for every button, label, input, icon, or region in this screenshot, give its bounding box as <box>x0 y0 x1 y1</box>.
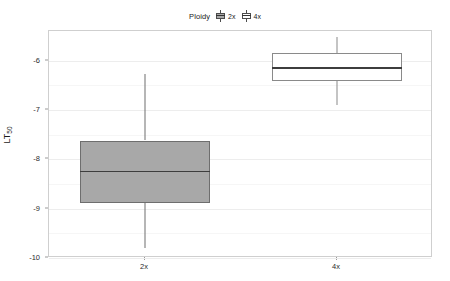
legend-key-2x[interactable]: 2x <box>216 10 235 22</box>
boxplot-glyph-icon <box>216 10 225 22</box>
y-tick-label: -9 <box>8 203 40 212</box>
boxplot-box[interactable] <box>80 31 210 256</box>
boxplot-box[interactable] <box>272 31 402 256</box>
legend-label-2x: 2x <box>228 13 235 20</box>
gridline <box>49 258 431 259</box>
median-line <box>80 171 210 173</box>
whisker-lower <box>337 81 338 105</box>
whisker-upper <box>145 74 146 141</box>
x-tick-label: 2x <box>140 262 148 271</box>
legend: Ploidy 2x 4x <box>0 8 450 24</box>
x-tick-label: 4x <box>332 262 340 271</box>
y-tick-label: -6 <box>8 55 40 64</box>
legend-key-4x[interactable]: 4x <box>242 10 261 22</box>
plot-panel <box>48 30 432 257</box>
whisker-upper <box>337 37 338 53</box>
legend-label-4x: 4x <box>254 13 261 20</box>
legend-title: Ploidy <box>189 12 210 21</box>
whisker-lower <box>145 203 146 248</box>
y-tick-label: -10 <box>8 253 40 262</box>
y-axis-title: LT50 <box>2 126 12 143</box>
y-tick-label: -8 <box>8 154 40 163</box>
boxplot-glyph-icon <box>242 10 251 22</box>
median-line <box>272 67 402 69</box>
y-tick-label: -7 <box>8 105 40 114</box>
boxplot-figure: Ploidy 2x 4x LT50 -6-7-8-9-10 2x4x <box>0 0 450 281</box>
